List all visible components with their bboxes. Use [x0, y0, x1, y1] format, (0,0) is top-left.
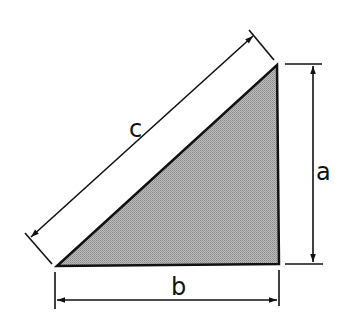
triangle-diagram: c a b: [0, 0, 349, 325]
extension-line-c-top: [249, 30, 274, 60]
right-triangle: [57, 65, 279, 266]
label-c: c: [129, 115, 142, 143]
label-a: a: [316, 158, 331, 186]
extension-line-c-bottom: [25, 233, 52, 264]
label-b: b: [171, 273, 186, 301]
